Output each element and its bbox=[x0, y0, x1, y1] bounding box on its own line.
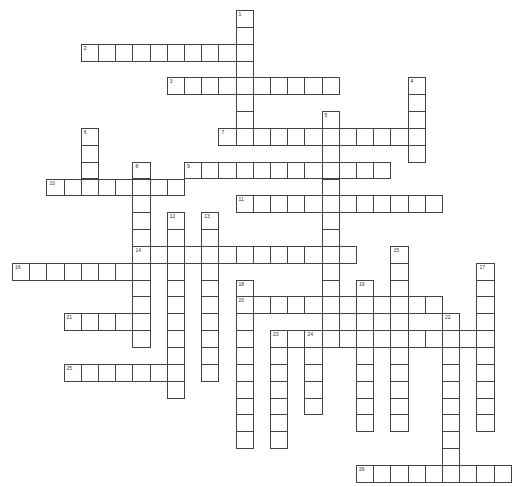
crossword-cell[interactable] bbox=[442, 448, 460, 466]
crossword-cell[interactable] bbox=[201, 246, 219, 264]
crossword-cell[interactable] bbox=[150, 179, 168, 197]
crossword-cell[interactable]: 10 bbox=[46, 179, 64, 197]
crossword-cell[interactable] bbox=[442, 465, 460, 483]
crossword-cell[interactable] bbox=[442, 364, 460, 382]
crossword-cell[interactable] bbox=[167, 381, 185, 399]
crossword-cell[interactable] bbox=[150, 246, 168, 264]
crossword-cell[interactable] bbox=[270, 398, 288, 416]
crossword-cell[interactable]: 9 bbox=[184, 162, 202, 180]
crossword-cell[interactable] bbox=[390, 128, 408, 146]
crossword-cell[interactable] bbox=[167, 280, 185, 298]
crossword-cell[interactable] bbox=[356, 296, 374, 314]
crossword-cell[interactable] bbox=[236, 347, 254, 365]
crossword-cell[interactable] bbox=[425, 195, 443, 213]
crossword-cell[interactable] bbox=[167, 330, 185, 348]
crossword-cell[interactable] bbox=[46, 263, 64, 281]
crossword-cell[interactable] bbox=[287, 195, 305, 213]
crossword-cell[interactable] bbox=[236, 44, 254, 62]
crossword-cell[interactable] bbox=[304, 398, 322, 416]
crossword-cell[interactable] bbox=[390, 280, 408, 298]
crossword-cell[interactable] bbox=[236, 381, 254, 399]
crossword-cell[interactable] bbox=[81, 145, 99, 163]
crossword-cell[interactable] bbox=[150, 44, 168, 62]
crossword-cell[interactable] bbox=[408, 111, 426, 129]
crossword-cell[interactable] bbox=[150, 364, 168, 382]
crossword-cell[interactable]: 2 bbox=[81, 44, 99, 62]
crossword-cell[interactable]: 6 bbox=[81, 128, 99, 146]
crossword-cell[interactable] bbox=[270, 381, 288, 399]
crossword-cell[interactable] bbox=[304, 77, 322, 95]
crossword-cell[interactable] bbox=[425, 296, 443, 314]
crossword-cell[interactable] bbox=[236, 77, 254, 95]
crossword-cell[interactable] bbox=[356, 398, 374, 416]
crossword-cell[interactable] bbox=[339, 195, 357, 213]
crossword-cell[interactable] bbox=[81, 162, 99, 180]
crossword-cell[interactable] bbox=[132, 195, 150, 213]
crossword-cell[interactable]: 25 bbox=[64, 364, 82, 382]
crossword-cell[interactable]: 17 bbox=[476, 263, 494, 281]
crossword-cell[interactable] bbox=[253, 128, 271, 146]
crossword-cell[interactable] bbox=[218, 77, 236, 95]
crossword-cell[interactable] bbox=[270, 296, 288, 314]
crossword-cell[interactable] bbox=[339, 246, 357, 264]
crossword-cell[interactable] bbox=[408, 465, 426, 483]
crossword-cell[interactable] bbox=[236, 128, 254, 146]
crossword-cell[interactable] bbox=[442, 347, 460, 365]
crossword-cell[interactable] bbox=[459, 465, 477, 483]
crossword-cell[interactable] bbox=[184, 246, 202, 264]
crossword-cell[interactable] bbox=[81, 313, 99, 331]
crossword-cell[interactable]: 20 bbox=[236, 296, 254, 314]
crossword-cell[interactable]: 8 bbox=[132, 162, 150, 180]
crossword-cell[interactable] bbox=[304, 364, 322, 382]
crossword-cell[interactable]: 3 bbox=[167, 77, 185, 95]
crossword-cell[interactable] bbox=[322, 162, 340, 180]
crossword-cell[interactable]: 15 bbox=[390, 246, 408, 264]
crossword-cell[interactable] bbox=[115, 44, 133, 62]
crossword-cell[interactable] bbox=[236, 313, 254, 331]
crossword-cell[interactable] bbox=[64, 263, 82, 281]
crossword-cell[interactable]: 18 bbox=[236, 280, 254, 298]
crossword-cell[interactable] bbox=[408, 145, 426, 163]
crossword-cell[interactable] bbox=[270, 246, 288, 264]
crossword-cell[interactable] bbox=[253, 296, 271, 314]
crossword-cell[interactable] bbox=[167, 179, 185, 197]
crossword-cell[interactable] bbox=[236, 162, 254, 180]
crossword-cell[interactable] bbox=[218, 162, 236, 180]
crossword-cell[interactable] bbox=[167, 229, 185, 247]
crossword-cell[interactable] bbox=[98, 44, 116, 62]
crossword-cell[interactable] bbox=[356, 162, 374, 180]
crossword-cell[interactable] bbox=[390, 381, 408, 399]
crossword-cell[interactable] bbox=[373, 128, 391, 146]
crossword-cell[interactable]: 21 bbox=[64, 313, 82, 331]
crossword-cell[interactable] bbox=[115, 364, 133, 382]
crossword-cell[interactable] bbox=[287, 246, 305, 264]
crossword-cell[interactable] bbox=[476, 330, 494, 348]
crossword-cell[interactable]: 7 bbox=[218, 128, 236, 146]
crossword-cell[interactable] bbox=[184, 44, 202, 62]
crossword-cell[interactable] bbox=[304, 162, 322, 180]
crossword-cell[interactable] bbox=[253, 162, 271, 180]
crossword-cell[interactable] bbox=[236, 94, 254, 112]
crossword-cell[interactable] bbox=[390, 195, 408, 213]
crossword-cell[interactable] bbox=[81, 364, 99, 382]
crossword-cell[interactable] bbox=[270, 195, 288, 213]
crossword-cell[interactable] bbox=[425, 330, 443, 348]
crossword-cell[interactable]: 12 bbox=[167, 212, 185, 230]
crossword-cell[interactable] bbox=[390, 398, 408, 416]
crossword-cell[interactable] bbox=[236, 330, 254, 348]
crossword-cell[interactable] bbox=[408, 128, 426, 146]
crossword-cell[interactable] bbox=[167, 246, 185, 264]
crossword-cell[interactable] bbox=[322, 179, 340, 197]
crossword-cell[interactable] bbox=[408, 296, 426, 314]
crossword-cell[interactable] bbox=[322, 330, 340, 348]
crossword-cell[interactable] bbox=[236, 414, 254, 432]
crossword-cell[interactable] bbox=[356, 347, 374, 365]
crossword-cell[interactable] bbox=[236, 398, 254, 416]
crossword-cell[interactable] bbox=[373, 330, 391, 348]
crossword-cell[interactable] bbox=[132, 330, 150, 348]
crossword-cell[interactable] bbox=[81, 263, 99, 281]
crossword-cell[interactable] bbox=[132, 212, 150, 230]
crossword-cell[interactable] bbox=[322, 229, 340, 247]
crossword-cell[interactable] bbox=[270, 77, 288, 95]
crossword-cell[interactable] bbox=[201, 263, 219, 281]
